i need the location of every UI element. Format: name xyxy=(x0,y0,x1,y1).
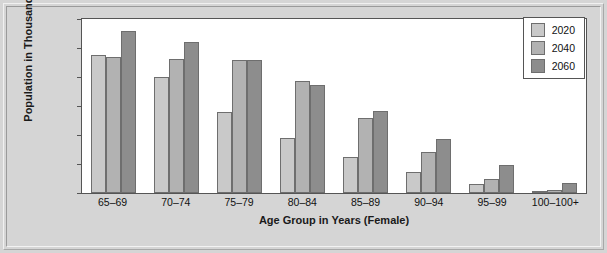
chart-legend: 202020402060 xyxy=(523,17,585,79)
x-axis-tick-labels: 65–6970–7475–7980–8485–8990–9495–99100–1… xyxy=(81,196,587,208)
y-tick-mark xyxy=(77,135,82,136)
y-tick-mark xyxy=(77,193,82,194)
bar-group xyxy=(145,19,208,193)
legend-label: 2020 xyxy=(552,24,575,36)
bar-2040-70–74[interactable] xyxy=(169,59,184,193)
y-tick-mark xyxy=(77,164,82,165)
y-tick-mark xyxy=(77,48,82,49)
bar-2040-80–84[interactable] xyxy=(295,81,310,193)
bar-2040-85–89[interactable] xyxy=(358,118,373,193)
bar-group xyxy=(208,19,271,193)
bar-2020-85–89[interactable] xyxy=(343,157,358,193)
y-tick-mark xyxy=(77,77,82,78)
legend-item-2020[interactable]: 2020 xyxy=(531,23,575,37)
bar-2040-90–94[interactable] xyxy=(421,152,436,193)
x-tick-label: 85–89 xyxy=(334,196,397,208)
x-tick-label: 90–94 xyxy=(397,196,460,208)
bar-groups xyxy=(82,19,586,193)
bar-2060-100–100+[interactable] xyxy=(562,183,577,193)
bar-group xyxy=(334,19,397,193)
x-tick-label: 65–69 xyxy=(81,196,144,208)
bar-group xyxy=(271,19,334,193)
bar-2060-85–89[interactable] xyxy=(373,111,388,193)
chart-figure: Population in Thousands 02,0004,0006,000… xyxy=(0,0,607,253)
bar-2020-100–100+[interactable] xyxy=(532,191,547,193)
legend-item-2060[interactable]: 2060 xyxy=(531,59,575,73)
x-tick-label: 95–99 xyxy=(461,196,524,208)
bar-2020-65–69[interactable] xyxy=(91,55,106,193)
bar-2040-65–69[interactable] xyxy=(106,57,121,193)
bar-group xyxy=(82,19,145,193)
bar-2020-90–94[interactable] xyxy=(406,172,421,193)
plot-area: 02,0004,0006,0008,00010,00012,000 xyxy=(81,18,587,194)
bar-2060-90–94[interactable] xyxy=(436,139,451,193)
bar-2040-95–99[interactable] xyxy=(484,179,499,193)
legend-swatch-icon xyxy=(531,23,545,37)
bar-2020-75–79[interactable] xyxy=(217,112,232,193)
bar-2060-80–84[interactable] xyxy=(310,85,325,193)
x-tick-label: 70–74 xyxy=(144,196,207,208)
bar-2040-75–79[interactable] xyxy=(232,60,247,193)
x-tick-label: 100–100+ xyxy=(524,196,587,208)
bar-2020-80–84[interactable] xyxy=(280,138,295,193)
bar-2060-95–99[interactable] xyxy=(499,165,514,193)
x-axis-title: Age Group in Years (Female) xyxy=(81,214,587,226)
bar-group xyxy=(397,19,460,193)
bar-2020-95–99[interactable] xyxy=(469,184,484,193)
x-tick-label: 80–84 xyxy=(271,196,334,208)
bar-group xyxy=(460,19,523,193)
bar-2040-100–100+[interactable] xyxy=(547,190,562,193)
y-tick-mark xyxy=(77,19,82,20)
y-axis-title: Population in Thousands xyxy=(22,0,34,146)
x-tick-label: 75–79 xyxy=(208,196,271,208)
legend-item-2040[interactable]: 2040 xyxy=(531,41,575,55)
y-tick-mark xyxy=(77,106,82,107)
bar-2060-65–69[interactable] xyxy=(121,31,136,193)
bar-2060-70–74[interactable] xyxy=(184,42,199,193)
bar-2060-75–79[interactable] xyxy=(247,60,262,193)
legend-swatch-icon xyxy=(531,59,545,73)
bar-2020-70–74[interactable] xyxy=(154,77,169,193)
legend-swatch-icon xyxy=(531,41,545,55)
legend-label: 2040 xyxy=(552,42,575,54)
legend-label: 2060 xyxy=(552,60,575,72)
